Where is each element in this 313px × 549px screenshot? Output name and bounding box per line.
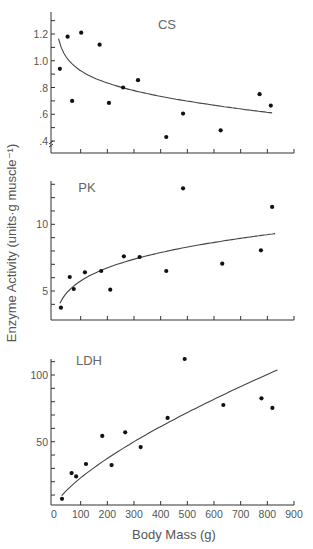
data-point xyxy=(164,269,168,273)
data-point xyxy=(164,135,168,139)
x-tick-label: 200 xyxy=(99,508,117,520)
data-point xyxy=(181,111,185,115)
x-axis-title: Body Mass (g) xyxy=(132,527,216,542)
x-tick-label: 0 xyxy=(51,508,57,520)
data-point xyxy=(221,403,225,407)
data-point xyxy=(259,396,263,400)
y-tick-label: .4 xyxy=(39,135,48,147)
data-point xyxy=(181,186,185,190)
y-tick-label: 5 xyxy=(42,285,48,297)
data-point xyxy=(122,254,126,258)
ldh-panel: 501000100200300400500600700800900LDH xyxy=(30,353,302,520)
x-tick-label: 300 xyxy=(125,508,143,520)
data-point xyxy=(98,43,102,47)
y-tick-label: 50 xyxy=(36,436,48,448)
fit-curve xyxy=(60,234,275,304)
x-tick-label: 400 xyxy=(152,508,170,520)
data-point xyxy=(259,248,263,252)
data-point xyxy=(107,101,111,105)
data-point xyxy=(83,270,87,274)
pk-panel: 510PK xyxy=(36,180,294,320)
x-tick-label: 100 xyxy=(72,508,90,520)
data-point xyxy=(108,288,112,292)
data-point xyxy=(59,306,63,310)
figure-canvas: .4.6.81.01.2CS 510PK 5010001002003004005… xyxy=(0,0,313,549)
panel-label: LDH xyxy=(76,353,102,368)
data-point xyxy=(58,67,62,71)
y-tick-label: 100 xyxy=(30,369,48,381)
data-point xyxy=(110,463,114,467)
y-tick-label: .8 xyxy=(39,82,48,94)
data-point xyxy=(70,99,74,103)
y-tick-label: .6 xyxy=(39,108,48,120)
data-point xyxy=(79,31,83,35)
cs-panel: .4.6.81.01.2CS xyxy=(33,12,294,153)
x-tick-label: 800 xyxy=(259,508,277,520)
panel-label: PK xyxy=(78,180,96,195)
data-point xyxy=(183,357,187,361)
x-tick-label: 700 xyxy=(232,508,250,520)
y-tick-label: 1.2 xyxy=(33,28,48,40)
data-point xyxy=(270,205,274,209)
data-point xyxy=(74,474,78,478)
x-tick-label: 600 xyxy=(205,508,223,520)
y-axis-title: Enzyme Activity (units·g muscle⁻¹) xyxy=(4,144,19,342)
x-tick-label: 900 xyxy=(285,508,303,520)
data-point xyxy=(123,430,127,434)
data-point xyxy=(72,287,76,291)
data-point xyxy=(70,471,74,475)
fit-curve xyxy=(59,39,273,113)
fit-curve xyxy=(62,370,278,496)
data-point xyxy=(166,416,170,420)
data-point xyxy=(99,269,103,273)
y-tick-label: 10 xyxy=(36,218,48,230)
data-point xyxy=(139,445,143,449)
data-point xyxy=(100,434,104,438)
data-point xyxy=(60,497,64,501)
data-point xyxy=(66,35,70,39)
data-point xyxy=(269,103,273,107)
data-point xyxy=(121,85,125,89)
x-tick-label: 500 xyxy=(179,508,197,520)
data-point xyxy=(258,92,262,96)
data-point xyxy=(270,406,274,410)
data-point xyxy=(84,462,88,466)
y-tick-label: 1.0 xyxy=(33,55,48,67)
data-point xyxy=(219,128,223,132)
data-point xyxy=(220,262,224,266)
data-point xyxy=(136,78,140,82)
data-point xyxy=(138,255,142,259)
data-point xyxy=(68,275,72,279)
panel-label: CS xyxy=(158,17,176,32)
